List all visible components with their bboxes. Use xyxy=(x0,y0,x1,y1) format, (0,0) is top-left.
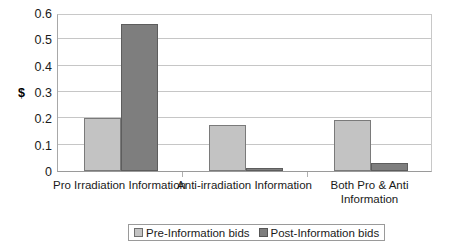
legend-swatch-pre-icon xyxy=(134,228,143,237)
y-tick-label: 0 xyxy=(45,166,52,178)
y-tick-label: 0.3 xyxy=(35,87,52,99)
legend-label-pre: Pre-Information bids xyxy=(146,227,250,239)
y-tick-label: 0.1 xyxy=(35,140,52,152)
y-tick-label: 0.4 xyxy=(35,61,52,73)
bar-post xyxy=(121,24,158,171)
category-label: Both Pro & Anti Information xyxy=(295,178,445,206)
bar-post xyxy=(246,168,283,171)
y-tick-label: 0.2 xyxy=(35,113,52,125)
legend-label-post: Post-Information bids xyxy=(271,227,380,239)
bar-chart: $ 00.10.20.30.40.50.6 Pro Irradiation In… xyxy=(0,0,451,251)
chart-legend: Pre-Information bids Post-Information bi… xyxy=(128,224,385,241)
y-tick-label: 0.6 xyxy=(35,8,52,20)
y-axis-title: $ xyxy=(18,87,25,99)
y-tick-label: 0.5 xyxy=(35,34,52,46)
legend-item-pre: Pre-Information bids xyxy=(134,227,250,239)
legend-item-post: Post-Information bids xyxy=(259,227,380,239)
bars-layer xyxy=(58,15,431,171)
x-axis-tick xyxy=(182,172,183,177)
x-axis-category-labels: Pro Irradiation InformationAnti-irradiat… xyxy=(40,178,445,220)
y-axis: $ 00.10.20.30.40.50.6 xyxy=(0,0,55,185)
bar-post xyxy=(371,163,408,171)
bar-pre xyxy=(334,120,371,171)
plot-area xyxy=(57,14,432,172)
legend-swatch-post-icon xyxy=(259,228,268,237)
bar-pre xyxy=(209,125,246,171)
bar-pre xyxy=(84,118,121,171)
x-axis-tick xyxy=(307,172,308,177)
